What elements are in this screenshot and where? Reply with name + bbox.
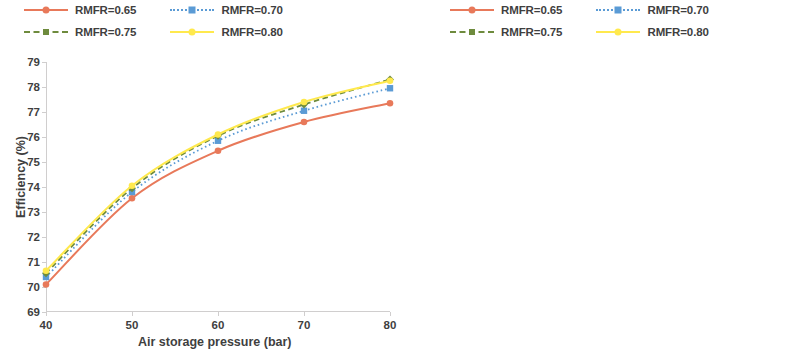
legend-marker-swatch	[469, 29, 475, 35]
data-point-marker	[43, 281, 50, 288]
legend-key-rmfr-080	[596, 25, 640, 39]
x-tick-mark	[46, 312, 47, 316]
data-point-marker	[129, 195, 136, 202]
legend-item: RMFR=0.75	[24, 24, 136, 40]
legend-label: RMFR=0.75	[75, 26, 136, 38]
series-line	[46, 80, 390, 274]
legend-label: RMFR=0.65	[75, 4, 136, 16]
legend-item: RMFR=0.70	[596, 2, 708, 18]
figure-root: RMFR=0.65 RMFR=0.70 RMFR=0.75 RMFR=0.80 …	[0, 0, 807, 354]
legend-key-rmfr-075	[450, 25, 494, 39]
series-line	[46, 103, 390, 284]
x-tick-label: 80	[384, 319, 397, 331]
legend-label: RMFR=0.75	[501, 26, 562, 38]
plot-area-left: 6970717273747576777879 4050607080	[46, 62, 390, 312]
legend-key-rmfr-080	[170, 25, 214, 39]
y-tick-label: 72	[27, 231, 40, 243]
legend-right: RMFR=0.65 RMFR=0.70 RMFR=0.75 RMFR=0.80	[450, 2, 709, 40]
legend-marker-swatch	[469, 7, 476, 14]
y-axis-title: Efficiency (%)	[14, 132, 28, 222]
y-tick-label: 77	[27, 106, 40, 118]
data-point-marker	[215, 147, 222, 154]
legend-item: RMFR=0.65	[450, 2, 562, 18]
legend-marker-swatch	[189, 7, 196, 14]
y-tick-label: 74	[27, 181, 40, 193]
legend-marker-swatch	[189, 29, 196, 36]
x-tick-mark	[304, 312, 305, 316]
data-point-marker	[43, 267, 50, 274]
legend-left: RMFR=0.65 RMFR=0.70 RMFR=0.75 RMFR=0.80	[24, 2, 283, 40]
data-point-marker	[301, 108, 307, 114]
y-tick-label: 73	[27, 206, 40, 218]
y-tick-label: 70	[27, 281, 40, 293]
x-tick-label: 50	[126, 319, 139, 331]
legend-key-rmfr-070	[596, 3, 640, 17]
series-line	[46, 81, 390, 271]
data-point-marker	[215, 131, 222, 138]
data-point-marker	[129, 182, 136, 189]
chart-panel-right: RMFR=0.65 RMFR=0.70 RMFR=0.75 RMFR=0.80 …	[412, 0, 807, 354]
legend-item: RMFR=0.70	[170, 2, 282, 18]
legend-marker-swatch	[43, 29, 49, 35]
legend-label: RMFR=0.70	[647, 4, 708, 16]
y-tick-label: 69	[27, 306, 40, 318]
x-tick-label: 60	[212, 319, 225, 331]
x-tick-mark	[390, 312, 391, 316]
data-point-marker	[387, 100, 394, 107]
legend-label: RMFR=0.70	[221, 4, 282, 16]
x-tick-label: 40	[40, 319, 53, 331]
y-tick-label: 76	[27, 131, 40, 143]
legend-marker-swatch	[615, 7, 622, 14]
x-tick-label: 70	[298, 319, 311, 331]
legend-marker-swatch	[43, 7, 50, 14]
legend-label: RMFR=0.80	[221, 26, 282, 38]
legend-item: RMFR=0.75	[450, 24, 562, 40]
legend-key-rmfr-070	[170, 3, 214, 17]
legend-key-rmfr-065	[24, 3, 68, 17]
legend-item: RMFR=0.65	[24, 2, 136, 18]
legend-marker-swatch	[615, 29, 622, 36]
data-point-marker	[387, 85, 393, 91]
series-line	[46, 88, 390, 277]
legend-label: RMFR=0.80	[647, 26, 708, 38]
legend-key-rmfr-075	[24, 25, 68, 39]
legend-label: RMFR=0.65	[501, 4, 562, 16]
chart-panel-left: RMFR=0.65 RMFR=0.70 RMFR=0.75 RMFR=0.80 …	[0, 0, 412, 354]
legend-key-rmfr-065	[450, 3, 494, 17]
data-point-marker	[301, 99, 308, 106]
series-lines	[46, 62, 390, 312]
y-tick-label: 79	[27, 56, 40, 68]
x-tick-mark	[218, 312, 219, 316]
legend-item: RMFR=0.80	[170, 24, 282, 40]
x-axis-title: Air storage pressure (bar)	[138, 335, 292, 349]
y-tick-label: 75	[27, 156, 40, 168]
y-tick-label: 78	[27, 81, 40, 93]
y-tick-label: 71	[27, 256, 40, 268]
data-point-marker	[301, 119, 308, 126]
legend-item: RMFR=0.80	[596, 24, 708, 40]
data-point-marker	[387, 77, 394, 84]
x-tick-mark	[132, 312, 133, 316]
